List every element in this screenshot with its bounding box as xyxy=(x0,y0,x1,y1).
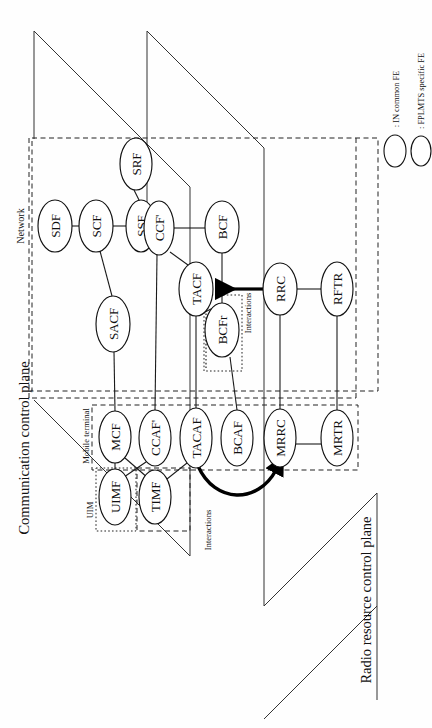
fe-node-label: SDF xyxy=(48,214,63,238)
legend-ellipse-fplmts-specific-fe xyxy=(411,136,431,166)
plane-network-sheet xyxy=(34,31,190,187)
edge-BCFr-BCAF xyxy=(230,357,237,410)
fe-node-mrtr[interactable]: MRTR xyxy=(321,410,353,466)
legend: : IN common FE : FPLMTS specific FE xyxy=(384,53,431,167)
edge-CCF-TACF xyxy=(170,252,188,265)
fe-node-label: SACF xyxy=(106,308,121,340)
label-communication-control-plane: Communication control plane xyxy=(16,361,32,534)
fe-node-tacaf[interactable]: TACAF xyxy=(180,408,212,468)
fe-node-ccfp[interactable]: CCF' xyxy=(144,201,174,255)
legend-ellipse-in-common-fe xyxy=(384,135,406,167)
fe-node-label: RFTR xyxy=(330,273,345,306)
fe-node-label: RRC xyxy=(273,276,288,302)
fe-node-bcfr[interactable]: BCFr xyxy=(205,303,239,357)
architecture-diagram: SDFSCFSSFCCF'SRFBCFSACFTACFBCFrRRCRFTRMC… xyxy=(0,0,432,728)
edge-CCF-CCAF xyxy=(155,255,157,410)
fe-node-label: UIMF xyxy=(108,481,123,513)
fe-node-label: SRF xyxy=(129,153,144,176)
fe-node-uimf[interactable]: UIMF xyxy=(99,469,131,525)
legend-label-fplmts-specific-fe: : FPLMTS specific FE xyxy=(417,53,426,129)
fe-node-sacf[interactable]: SACF xyxy=(96,296,130,352)
fe-node-label: TIMF xyxy=(148,482,163,513)
label-interactions-upper: Interactions xyxy=(243,292,253,333)
fe-node-label: BCFr xyxy=(215,315,230,344)
fe-node-srf[interactable]: SRF xyxy=(120,138,152,190)
fe-node-bcaf[interactable]: BCAF xyxy=(221,410,253,466)
network-region-box xyxy=(32,138,378,391)
fe-node-sdf[interactable]: SDF xyxy=(38,200,72,252)
fe-node-label: TACF xyxy=(189,273,204,305)
fe-node-label: MCF xyxy=(108,423,123,450)
fe-node-ccaf[interactable]: CCAF' xyxy=(139,410,171,466)
fe-node-label: MRTR xyxy=(330,420,345,456)
fe-node-rftr[interactable]: RFTR xyxy=(321,262,353,316)
edge-SACF-MCF xyxy=(114,352,115,411)
fe-node-label: BCAF xyxy=(230,421,245,455)
fe-node-timf[interactable]: TIMF xyxy=(139,470,171,524)
label-radio-resource-control-plane: Radio resource control plane xyxy=(358,516,374,683)
fe-node-mrrc[interactable]: MRRC xyxy=(264,409,296,467)
edge-TACAF-TIMF xyxy=(167,463,187,479)
edge-SCF-SACF xyxy=(100,251,112,296)
label-uim: UIM xyxy=(85,501,95,518)
figure-root: SDFSCFSSFCCF'SRFBCFSACFTACFBCFrRRCRFTRMC… xyxy=(0,0,432,728)
fe-node-tacf[interactable]: TACF xyxy=(179,262,213,316)
fe-node-label: CCF' xyxy=(152,215,167,242)
fe-node-rrc[interactable]: RRC xyxy=(263,263,297,315)
fe-node-label: BCF xyxy=(215,215,230,239)
label-interactions-lower: Interactions xyxy=(203,509,213,550)
fe-node-label: TACAF xyxy=(189,417,204,458)
label-mobile-terminal: Mobile terminal xyxy=(81,408,91,464)
fe-node-mcf[interactable]: MCF xyxy=(99,411,131,463)
legend-label-in-common-fe: : IN common FE xyxy=(392,71,401,128)
fe-node-scf[interactable]: SCF xyxy=(79,200,113,252)
fe-node-label: SCF xyxy=(89,215,104,238)
label-network: Network xyxy=(15,207,26,244)
fe-node-label: MRRC xyxy=(273,419,288,457)
fe-node-bcf[interactable]: BCF xyxy=(205,201,239,253)
fe-node-label: CCAF' xyxy=(148,420,163,456)
